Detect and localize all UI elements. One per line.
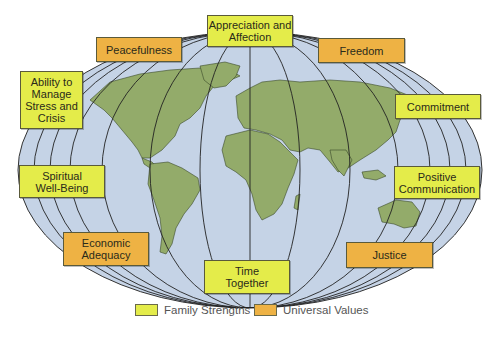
label-text: Freedom	[339, 45, 383, 57]
label-text: Commitment	[407, 101, 469, 113]
label-justice: Justice	[346, 242, 433, 268]
label-appreciation-and-affection: Appreciation and Affection	[207, 15, 293, 47]
label-text: Peacefulness	[106, 44, 172, 56]
label-peacefulness: Peacefulness	[96, 37, 182, 62]
legend-swatch-universal-values	[254, 304, 277, 316]
label-text: Justice	[372, 249, 406, 261]
label-spiritual-well-being: Spiritual Well-Being	[19, 165, 105, 198]
legend: Family Strengths Universal Values	[0, 303, 498, 319]
label-text: Appreciation and Affection	[208, 19, 292, 43]
label-positive-communication: Positive Communication	[394, 166, 480, 199]
label-text: Time Together	[222, 265, 272, 289]
label-economic-adequacy: Economic Adequacy	[63, 232, 149, 266]
label-text: Spiritual Well-Being	[32, 170, 92, 194]
label-stress-and-crisis: Ability to Manage Stress and Crisis	[20, 71, 83, 129]
label-freedom: Freedom	[318, 38, 405, 63]
label-time-together: Time Together	[204, 260, 290, 294]
label-text: Positive Communication	[395, 171, 479, 195]
label-text: Economic Adequacy	[76, 237, 136, 261]
legend-label-universal-values: Universal Values	[283, 303, 368, 318]
label-text: Ability to Manage Stress and Crisis	[21, 76, 82, 124]
label-commitment: Commitment	[395, 94, 481, 119]
legend-swatch-family-strengths	[135, 304, 158, 316]
legend-label-family-strengths: Family Strengths	[164, 303, 250, 318]
